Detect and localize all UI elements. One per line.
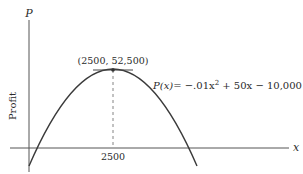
vertex-point (111, 68, 115, 72)
y-axis-label: P (24, 7, 33, 20)
y-axis-title: Profit (7, 92, 18, 120)
equation-tail: + 50x − 10,000 (219, 80, 302, 91)
profit-parabola-chart: P x Profit (2500, 52,500) P(x)= −.01x2 +… (0, 0, 303, 174)
x-tick-2500: 2500 (101, 151, 125, 162)
equation-label: P(x)= −.01x2 + 50x − 10,000 (152, 79, 302, 91)
x-axis-label: x (293, 141, 300, 154)
equation-lhs: P(x) (152, 80, 173, 91)
vertex-label: (2500, 52,500) (78, 55, 149, 66)
equation-rhs: = −.01x (173, 80, 215, 91)
